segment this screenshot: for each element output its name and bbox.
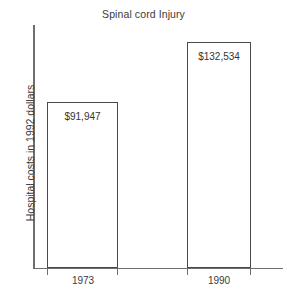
- bar-chart-figure: Spinal cord Injury Hospital costs in 199…: [0, 0, 287, 298]
- bar-1990: $132,534: [187, 42, 251, 268]
- y-axis-title: Hospital costs in 1992 dollars: [24, 68, 36, 238]
- x-axis-label-1973: 1973: [53, 275, 113, 286]
- x-axis-tick: [47, 269, 48, 275]
- bar-value-1990: $132,534: [188, 51, 250, 62]
- bar-1973: $91,947: [47, 102, 118, 268]
- x-axis-tick: [250, 269, 251, 275]
- bar-value-1973: $91,947: [48, 111, 117, 122]
- chart-title: Spinal cord Injury: [0, 8, 287, 20]
- x-axis-tick: [117, 269, 118, 275]
- x-axis-label-1990: 1990: [189, 275, 249, 286]
